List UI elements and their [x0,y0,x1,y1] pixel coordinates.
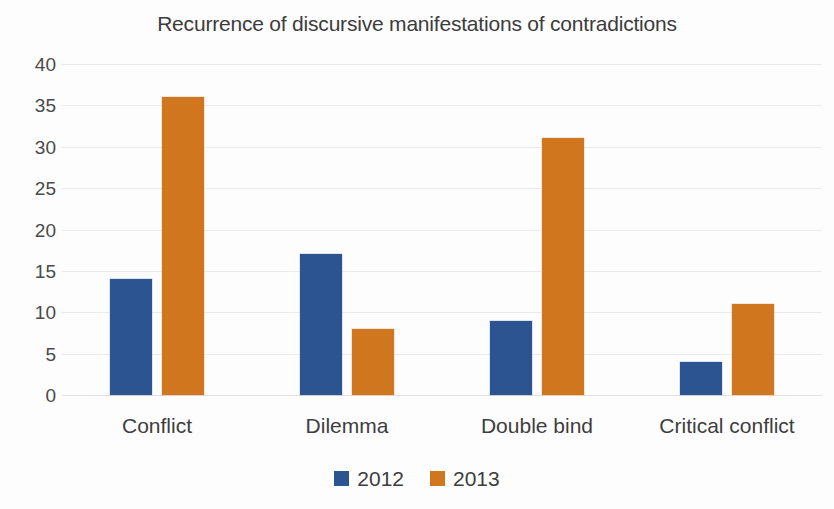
y-axis-tick-label: 10 [0,303,56,322]
x-axis-tick-label: Double bind [481,414,593,438]
bar-2013-dilemma [352,329,394,395]
bar-2012-dilemma [300,254,342,395]
y-axis-tick-label: 35 [0,96,56,115]
legend-label-2013: 2013 [453,468,500,489]
y-axis-tick-label: 25 [0,179,56,198]
legend-item-2012[interactable]: 2012 [334,468,404,489]
chart-title: Recurrence of discursive manifestations … [0,12,834,36]
legend-swatch-icon-2013 [430,471,445,486]
y-axis: 0510152025303540 [0,64,56,395]
legend-label-2012: 2012 [357,468,404,489]
bar-2013-critical-conflict [732,304,774,395]
plot-area [62,64,822,395]
y-axis-tick-label: 15 [0,261,56,280]
y-axis-tick-label: 20 [0,220,56,239]
gridline [62,395,822,396]
bar-2013-conflict [162,97,204,395]
legend-swatch-icon-2012 [334,471,349,486]
x-axis-tick-label: Dilemma [306,414,389,438]
x-axis-tick-label: Conflict [122,414,192,438]
y-axis-tick-label: 0 [0,386,56,405]
legend-item-2013[interactable]: 2013 [430,468,500,489]
bar-chart: Recurrence of discursive manifestations … [0,0,834,509]
bar-2013-double-bind [542,138,584,395]
y-axis-tick-label: 5 [0,344,56,363]
chart-legend: 2012 2013 [0,468,834,489]
bar-2012-conflict [110,279,152,395]
bar-2012-critical-conflict [680,362,722,395]
y-axis-tick-label: 30 [0,137,56,156]
x-axis: ConflictDilemmaDouble bindCritical confl… [62,414,822,448]
bar-2012-double-bind [490,321,532,395]
y-axis-tick-label: 40 [0,55,56,74]
x-axis-tick-label: Critical conflict [659,414,794,438]
gridline [62,64,822,65]
